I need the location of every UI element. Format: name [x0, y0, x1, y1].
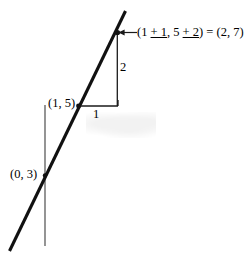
- equation-part-open: (1: [137, 25, 151, 39]
- figure-canvas: [0, 0, 252, 260]
- point-marker-1-5: [76, 104, 81, 109]
- annotation-arrowhead-icon: [118, 30, 124, 36]
- point-label-1-5: (1, 5): [48, 97, 75, 110]
- equation-part-dy: + 2: [183, 25, 199, 39]
- point-label-0-3: (0, 3): [10, 168, 37, 181]
- equation-part-mid: , 5: [167, 25, 183, 39]
- run-length-label: 1: [93, 108, 99, 121]
- point-marker-0-3: [43, 173, 47, 177]
- equation-part-dx: + 1: [151, 25, 167, 39]
- graph-line: [10, 11, 126, 251]
- slope-triangle-figure: (0, 3) (1, 5) 1 2 (1 + 1, 5 + 2) = (2, 7…: [0, 0, 252, 260]
- coordinate-equation-annotation: (1 + 1, 5 + 2) = (2, 7): [137, 26, 244, 39]
- rise-length-label: 2: [120, 61, 126, 74]
- equation-part-close: ) = (2, 7): [199, 25, 244, 39]
